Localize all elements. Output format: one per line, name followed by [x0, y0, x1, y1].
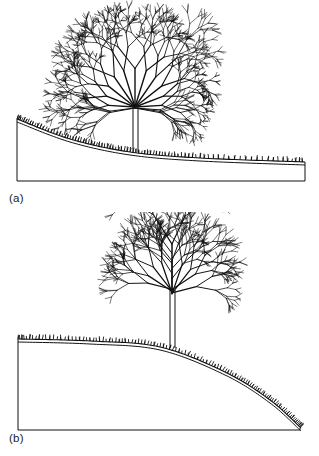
- branch: [176, 39, 187, 58]
- branch: [172, 21, 179, 23]
- branch: [185, 233, 187, 243]
- grass-tick: [217, 364, 219, 368]
- panel-b-content: [18, 212, 304, 431]
- branch: [72, 125, 77, 129]
- branch: [161, 91, 177, 105]
- grass-tick: [124, 146, 125, 151]
- branch: [124, 234, 125, 240]
- branch: [101, 49, 102, 64]
- panel-label-a: (a): [9, 192, 24, 205]
- grass-tick: [132, 339, 133, 343]
- branch: [66, 76, 69, 79]
- branch: [226, 298, 229, 306]
- grass-tick: [280, 406, 281, 408]
- branch: [93, 70, 95, 82]
- branch: [46, 79, 51, 82]
- branch: [173, 133, 174, 140]
- branch: [213, 233, 220, 242]
- branch: [164, 41, 169, 57]
- branch: [142, 6, 146, 10]
- branch: [217, 233, 220, 244]
- branch: [103, 257, 108, 264]
- grass-tick: [225, 369, 227, 372]
- branch: [221, 255, 222, 263]
- branch: [56, 77, 60, 84]
- branch: [44, 110, 50, 111]
- grass-tick: [110, 144, 111, 149]
- branch: [196, 137, 198, 140]
- branch: [61, 45, 67, 50]
- grass-tick: [295, 158, 296, 162]
- terrain-surface: [18, 339, 301, 428]
- branch: [210, 109, 213, 111]
- branch: [179, 20, 183, 24]
- branch: [71, 80, 80, 83]
- branch: [216, 252, 218, 257]
- branch: [97, 111, 110, 122]
- branch: [121, 226, 126, 231]
- grass-tick: [246, 156, 247, 160]
- grass-tick: [208, 154, 209, 159]
- branch: [163, 10, 168, 14]
- grass-tick: [267, 395, 269, 398]
- branch: [57, 100, 61, 101]
- branch: [67, 30, 74, 31]
- branch: [215, 94, 219, 95]
- branch: [212, 36, 218, 40]
- grass-tick: [172, 153, 173, 157]
- branch: [112, 212, 119, 215]
- branch: [68, 85, 76, 87]
- branch: [194, 132, 199, 137]
- branch: [194, 137, 196, 141]
- branch: [187, 4, 188, 13]
- branch: [135, 45, 150, 68]
- branch: [135, 71, 146, 107]
- branch: [191, 247, 195, 270]
- branch: [232, 304, 237, 307]
- branch: [200, 134, 203, 135]
- panel-b-drawing: [0, 212, 319, 456]
- branch: [174, 42, 180, 51]
- branch: [76, 109, 84, 113]
- branch: [74, 74, 83, 75]
- grass-tick: [157, 343, 158, 346]
- soil-line: [18, 342, 301, 431]
- branch: [170, 33, 171, 40]
- branch: [99, 280, 105, 285]
- panel-a-content: [17, 1, 305, 181]
- branch: [80, 123, 86, 128]
- branch: [158, 42, 164, 56]
- branch: [153, 36, 154, 44]
- grass-tick: [282, 408, 284, 410]
- branch: [196, 217, 199, 224]
- branch: [216, 95, 222, 96]
- tree-trunk: [170, 290, 175, 348]
- branch: [157, 3, 160, 9]
- branch: [108, 261, 113, 264]
- branch: [153, 12, 156, 19]
- branch: [123, 272, 133, 274]
- branch: [205, 13, 211, 18]
- branch: [144, 27, 145, 31]
- branch: [146, 57, 164, 71]
- grass-tick: [212, 361, 214, 365]
- branch: [198, 218, 202, 225]
- ground-box-outline: [17, 119, 305, 181]
- grass-tick: [265, 394, 267, 397]
- grass-tick: [45, 334, 46, 339]
- grass-tick: [232, 373, 233, 376]
- branch: [133, 224, 141, 225]
- branch: [50, 107, 57, 111]
- grass-tick: [191, 354, 192, 357]
- branch: [211, 24, 218, 28]
- panel-a: [0, 0, 319, 212]
- branch: [121, 243, 133, 246]
- branch: [227, 283, 232, 288]
- branch: [46, 101, 52, 102]
- branch: [95, 112, 110, 125]
- grass-tick: [290, 415, 292, 417]
- branch: [199, 137, 204, 138]
- branch: [153, 44, 158, 56]
- grass-tick: [151, 342, 152, 346]
- branch: [50, 101, 51, 106]
